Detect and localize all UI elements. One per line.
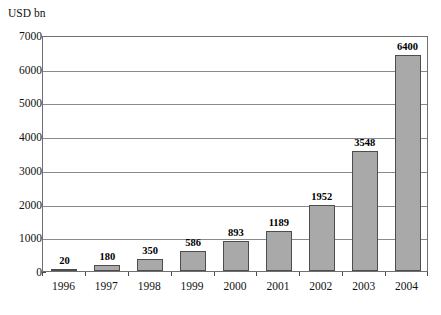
y-axis-tick-label: 5000 [6, 97, 42, 109]
x-axis-tick-label: 1998 [128, 279, 171, 293]
bar-slot: 20 [43, 37, 86, 271]
bar[interactable] [309, 205, 335, 271]
bar-slot: 1952 [300, 37, 343, 271]
y-axis-tick-label: 7000 [6, 30, 42, 42]
bar[interactable] [137, 259, 163, 271]
bar-value-label: 350 [142, 245, 158, 256]
bar-slot: 1189 [257, 37, 300, 271]
x-axis-tick-mark [171, 272, 172, 276]
bar-slot: 586 [172, 37, 215, 271]
x-axis-tick-mark [128, 272, 129, 276]
bar-slot: 893 [215, 37, 258, 271]
x-axis-tick-mark [427, 272, 428, 276]
x-axis-tick-label: 1996 [42, 279, 85, 293]
y-axis-tick-label: 0 [6, 266, 42, 278]
x-axis-tick-mark [214, 272, 215, 276]
bar-value-label: 893 [228, 227, 244, 238]
bar-slot: 3548 [343, 37, 386, 271]
bar-slot: 180 [86, 37, 129, 271]
bar-value-label: 1952 [311, 191, 332, 202]
bar-value-label: 586 [185, 237, 201, 248]
bar-slot: 350 [129, 37, 172, 271]
bar[interactable] [266, 231, 292, 271]
y-axis-tick-label: 3000 [6, 165, 42, 177]
x-axis-tick-mark [342, 272, 343, 276]
bar[interactable] [180, 251, 206, 271]
x-axis-tick-mark [256, 272, 257, 276]
x-axis-tick-label: 2001 [256, 279, 299, 293]
bar[interactable] [395, 55, 421, 271]
y-axis-tick-label: 4000 [6, 131, 42, 143]
bar-value-label: 6400 [397, 41, 418, 52]
x-axis-tick-label: 2002 [299, 279, 342, 293]
x-axis-tick-mark [299, 272, 300, 276]
plot-area: 201803505868931189195235486400 [42, 36, 428, 272]
y-axis-title: USD bn [8, 6, 45, 20]
bar-value-label: 1189 [269, 217, 289, 228]
bar[interactable] [51, 269, 77, 271]
bar-series: 201803505868931189195235486400 [43, 37, 427, 271]
bar[interactable] [94, 265, 120, 271]
x-axis-tick-label: 1999 [171, 279, 214, 293]
x-axis-tick-group [42, 272, 428, 277]
y-axis-tick-label: 2000 [6, 199, 42, 211]
x-axis-tick-mark [42, 272, 43, 276]
x-axis-tick-label: 1997 [85, 279, 128, 293]
bar[interactable] [352, 151, 378, 271]
bar-chart: USD bn 01000200030004000500060007000 201… [0, 0, 441, 315]
bar-slot: 6400 [386, 37, 429, 271]
bar-value-label: 180 [99, 251, 115, 262]
bar-value-label: 3548 [354, 137, 375, 148]
bar[interactable] [223, 241, 249, 271]
y-axis-tick-label: 6000 [6, 64, 42, 76]
y-axis-tick-group: 01000200030004000500060007000 [0, 36, 42, 272]
x-axis-tick-mark [85, 272, 86, 276]
x-axis-label-group: 199619971998199920002001200220032004 [42, 279, 428, 297]
x-axis-tick-mark [385, 272, 386, 276]
x-axis-tick-label: 2004 [385, 279, 428, 293]
x-axis-tick-label: 2003 [342, 279, 385, 293]
y-axis-tick-label: 1000 [6, 232, 42, 244]
bar-value-label: 20 [59, 255, 70, 266]
x-axis-tick-label: 2000 [214, 279, 257, 293]
